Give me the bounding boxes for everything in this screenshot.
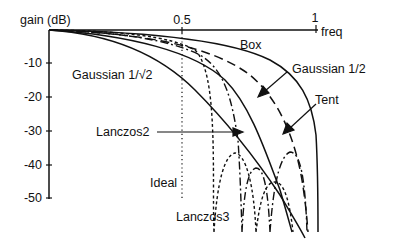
x-ticks bbox=[182, 25, 316, 33]
y-tick-label: -20 bbox=[24, 90, 42, 104]
y-tick-label: -10 bbox=[24, 56, 42, 70]
label-gaussian-sqrt2: Gaussian 1/√2 bbox=[72, 68, 153, 82]
x-axis-label: freq bbox=[321, 25, 343, 39]
label-lanczos3: Lanczos3 bbox=[176, 210, 230, 224]
series-tent bbox=[49, 30, 292, 232]
y-tick-label: -50 bbox=[24, 191, 42, 205]
label-tent: Tent bbox=[315, 93, 339, 107]
series-box bbox=[49, 30, 318, 232]
label-ideal: Ideal bbox=[150, 176, 177, 190]
y-axis-label: gain (dB) bbox=[20, 13, 71, 27]
x-tick-label: 0.5 bbox=[173, 13, 190, 27]
label-box: Box bbox=[240, 38, 262, 52]
y-tick-label: -40 bbox=[24, 158, 42, 172]
x-tick-label: 1 bbox=[312, 11, 319, 25]
series-lanczos2 bbox=[49, 30, 307, 232]
series-gaussian-sqrt2 bbox=[49, 30, 305, 238]
y-tick-label: -30 bbox=[24, 124, 42, 138]
filter-frequency-response-chart: -10 -20 -30 -40 -50 0.5 1 gain (dB) freq… bbox=[0, 0, 395, 248]
chart-svg: -10 -20 -30 -40 -50 0.5 1 gain (dB) freq… bbox=[0, 0, 395, 248]
label-gaussian-half: Gaussian 1/2 bbox=[292, 62, 366, 76]
label-lanczos2: Lanczos2 bbox=[96, 125, 150, 139]
